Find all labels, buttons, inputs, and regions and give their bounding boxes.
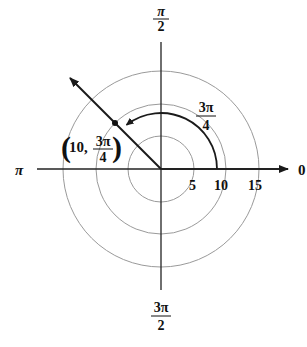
axis-label-0: 0 [298,162,306,178]
radius-label-15: 15 [248,178,262,193]
plotted-point [112,120,118,126]
arc-label-num: 3π [199,100,214,115]
arc-label-den: 4 [203,118,210,133]
axis-label-pi: π [15,162,24,178]
point-label-close-paren: ) [112,130,122,164]
axis-label-pi-over-2-den: 2 [158,19,165,34]
point-label-r: 10, [69,139,88,155]
point-label-theta-num: 3π [96,134,111,149]
radius-label-5: 5 [189,178,196,193]
axis-label-3pi-over-2-den: 2 [158,318,165,333]
point-label-theta-den: 4 [100,150,107,165]
axis-label-3pi-over-2-num: 3π [154,300,169,315]
polar-diagram: 5 10 15 0 π π 2 3π 2 3π 4 ( 10, 3π 4 ) [0,0,307,347]
axis-label-pi-over-2-num: π [157,4,165,19]
radius-label-10: 10 [214,178,228,193]
